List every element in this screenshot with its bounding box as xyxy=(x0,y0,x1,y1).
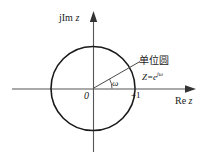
real-axis-label-variable: z xyxy=(189,95,193,106)
unit-circle-diagram: jIm z Re z 0 +1 单位圆 Z=ejω ω xyxy=(0,0,208,160)
imaginary-axis-label: jIm z xyxy=(59,13,79,23)
imaginary-axis-arrowhead xyxy=(90,11,97,22)
diagram-canvas xyxy=(0,0,208,160)
z-equation-exponent: jω xyxy=(157,71,163,77)
origin-label: 0 xyxy=(84,91,89,101)
z-equation-label: Z=ejω xyxy=(142,71,163,82)
z-equation-base: Z=e xyxy=(142,72,157,82)
real-axis xyxy=(12,85,196,93)
real-axis-arrowhead xyxy=(185,85,196,93)
angle-omega-label: ω xyxy=(112,79,118,88)
unit-mark-label: +1 xyxy=(131,91,141,100)
real-axis-label: Re z xyxy=(175,96,193,106)
imaginary-axis-label-prefix: jIm xyxy=(59,12,75,23)
unit-circle-label: 单位圆 xyxy=(139,56,169,66)
imaginary-axis-label-variable: z xyxy=(75,12,79,23)
real-axis-label-prefix: Re xyxy=(175,95,189,106)
